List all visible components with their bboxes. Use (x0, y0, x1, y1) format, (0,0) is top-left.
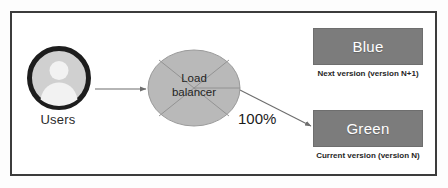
node-users-label: Users (23, 112, 93, 127)
lb-label-line-1: Load (147, 71, 241, 85)
node-users[interactable]: Users (23, 46, 93, 132)
lb-label-line-2: balancer (147, 85, 241, 99)
user-avatar-icon (27, 46, 91, 110)
node-blue-label: Blue (352, 38, 383, 55)
node-load-balancer-label: Load balancer (147, 71, 241, 99)
diagram-canvas: Users Load balancer Blue Next version (v… (0, 0, 448, 188)
node-blue-caption: Next version (version N+1) (303, 69, 433, 78)
node-green-caption: Current version (version N) (303, 151, 433, 160)
node-blue-environment[interactable]: Blue (313, 28, 423, 65)
node-green-label: Green (346, 120, 389, 137)
node-load-balancer[interactable]: Load balancer (147, 49, 241, 127)
edge-label-traffic-percentage: 100% (238, 110, 276, 127)
node-green-environment[interactable]: Green (313, 110, 423, 147)
